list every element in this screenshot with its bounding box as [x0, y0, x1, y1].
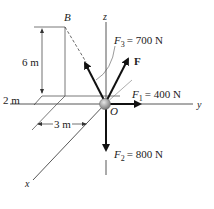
- box-diag-B: [57, 96, 65, 104]
- dim-2m-label: 2 m: [3, 94, 20, 106]
- y-axis-label: y: [196, 99, 202, 110]
- F3-label: F3= 700 N: [113, 34, 163, 49]
- origin-label: O: [110, 105, 118, 117]
- dim-3m-label: 3 m: [54, 118, 71, 130]
- F1-label: F1= 400 N: [131, 88, 181, 103]
- F-label: F: [134, 55, 141, 67]
- F2-label: F2= 800 N: [113, 148, 163, 163]
- z-axis-label: z: [102, 11, 107, 22]
- x-axis: [33, 104, 105, 180]
- force-F3-arrow: [85, 63, 104, 100]
- force-F-arrow: [107, 59, 128, 100]
- dim-6m-label: 6 m: [22, 56, 39, 68]
- force-diagram: 6 m 2 m 3 m B z y x O F3= 700 N F F1= 40…: [0, 0, 214, 209]
- origin-ball: [100, 99, 111, 110]
- F3-leader: [96, 46, 115, 80]
- x-axis-label: x: [24, 178, 30, 189]
- point-B-label: B: [64, 11, 71, 23]
- dashed-line-B: [65, 27, 86, 62]
